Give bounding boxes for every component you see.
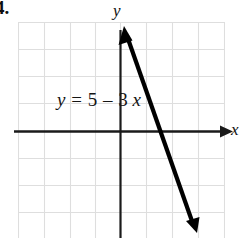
problem-number: 4. xyxy=(0,0,9,17)
equation-lhs: y xyxy=(57,89,65,110)
equation-annotation: y = 5 – 3 x xyxy=(57,90,141,109)
x-axis-label: x xyxy=(231,121,239,138)
x-axis xyxy=(14,126,233,138)
equation-minus: – xyxy=(102,89,114,110)
equation-equals: = xyxy=(70,89,83,110)
coordinate-plane xyxy=(0,0,240,238)
equation-coefficient: 3 xyxy=(118,89,128,110)
equation-constant: 5 xyxy=(88,89,98,110)
equation-variable: x xyxy=(132,89,140,110)
y-axis-label: y xyxy=(113,2,121,19)
graph-figure: 4. y x y = 5 – 3 x xyxy=(0,0,240,238)
function-line xyxy=(119,26,200,233)
